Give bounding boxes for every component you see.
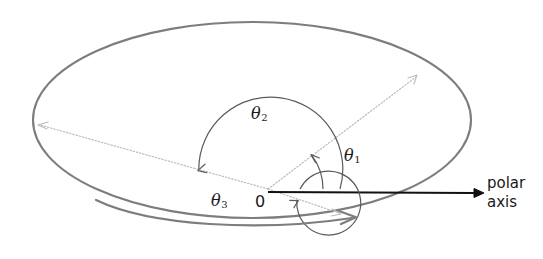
theta1-label: θ1: [344, 148, 361, 166]
plane-sweep-arrowhead: [339, 211, 356, 224]
polar-axis-label: polaraxis: [487, 174, 525, 212]
theta3-symbol: θ: [211, 191, 221, 210]
theta1-symbol: θ: [344, 146, 354, 165]
polar-axis-label-line2: axis: [487, 193, 525, 212]
theta1-arc-arrowhead: [311, 155, 319, 163]
theta2-label: θ2: [251, 106, 268, 124]
theta2-ray: [40, 125, 268, 189]
origin-label: 0: [255, 194, 265, 211]
polar-angle-diagram: θ2 θ1 θ3 0 polaraxis: [0, 0, 543, 259]
diagram-canvas: [0, 0, 543, 259]
polar-axis-line: [268, 192, 474, 193]
theta2-ray-arrowhead: [38, 122, 48, 129]
theta1-subscript: 1: [354, 154, 360, 165]
theta3-subscript: 3: [221, 199, 227, 210]
theta2-symbol: θ: [251, 104, 261, 123]
theta1-ray: [268, 77, 416, 189]
theta2-subscript: 2: [261, 112, 267, 123]
polar-axis-arrowhead: [474, 189, 484, 198]
theta3-arc: [297, 171, 361, 235]
theta3-label: θ3: [211, 193, 228, 211]
polar-axis-label-line1: polar: [487, 174, 525, 192]
